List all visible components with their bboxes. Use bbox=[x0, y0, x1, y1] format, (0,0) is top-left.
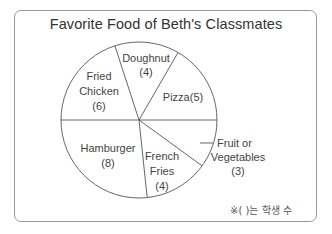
label-fruit-3: (3) bbox=[231, 165, 244, 177]
unit-note: ※( )는 학생 수 bbox=[230, 202, 292, 217]
label-doughnut-2: (4) bbox=[139, 66, 152, 78]
label-chicken-3: (6) bbox=[92, 100, 105, 112]
label-hamburger-1: Hamburger bbox=[80, 142, 135, 154]
label-chicken-1: Fried bbox=[86, 70, 111, 82]
label-doughnut-1: Doughnut bbox=[122, 52, 170, 64]
label-hamburger-2: (8) bbox=[101, 157, 114, 169]
label-fries-2: Fries bbox=[150, 165, 175, 177]
label-fries-1: French bbox=[145, 150, 179, 162]
label-fruit-1: Fruit or bbox=[217, 137, 252, 149]
label-fries-3: (4) bbox=[155, 180, 168, 192]
label-fruit-2: Vegetables bbox=[211, 151, 266, 163]
label-pizza: Pizza(5) bbox=[163, 91, 203, 103]
label-chicken-2: Chicken bbox=[79, 85, 119, 97]
pie-chart: Pizza(5) Fruit or Vegetables (3) French … bbox=[0, 0, 332, 234]
